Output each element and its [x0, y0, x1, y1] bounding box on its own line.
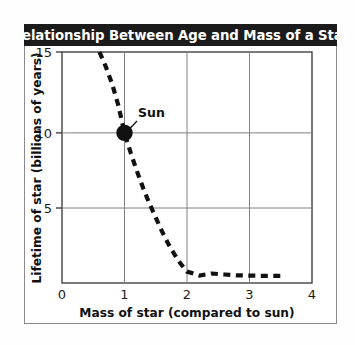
sun-annotation-label: Sun	[138, 105, 165, 120]
y-axis-title: Lifetime of star (billions of years)	[30, 53, 44, 284]
sun-data-point-marker	[116, 125, 132, 141]
figure-container: Relationship Between Age and Mass of a S…	[0, 0, 355, 345]
y-axis-ticks	[56, 52, 62, 208]
x-tick-label-3: 3	[245, 287, 253, 302]
y-tick-label-5: 5	[44, 201, 52, 216]
chart-plot: 15 10 5 0 1 2 3 4 Sun Mass of star (comp…	[0, 0, 355, 345]
x-tick-label-4: 4	[308, 287, 316, 302]
x-tick-label-0: 0	[58, 287, 66, 302]
x-tick-label-2: 2	[183, 287, 191, 302]
x-tick-label-1: 1	[120, 287, 128, 302]
x-axis-title: Mass of star (compared to sun)	[79, 306, 294, 320]
